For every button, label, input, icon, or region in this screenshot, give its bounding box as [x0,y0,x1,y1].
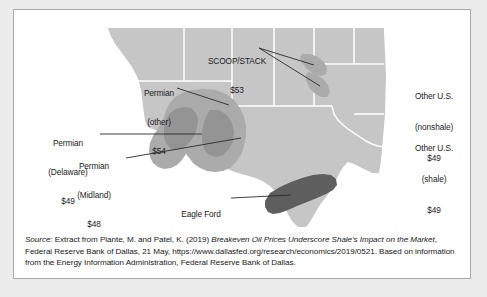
label-other-us-nonshale-line1: Other U.S. [403,91,465,101]
callout-permian-other-line2: (other) [128,118,190,128]
callout-permian-midland: Permian (Midland) $48 [61,143,127,228]
callout-eagle-ford: Eagle Ford $51 [171,191,231,228]
source-title: Breakeven Oil Prices Underscore Shale's … [211,235,434,244]
callout-scoop-stack: SCOOP/STACK $53 [192,38,282,115]
callout-eagle-ford-line1: Eagle Ford [171,210,231,220]
callout-scoop-stack-line2: $53 [192,86,282,96]
callout-permian-midland-line1: Permian [61,162,127,172]
figure-page: SCOOP/STACK $53 Permian (other) $54 Perm… [0,0,487,297]
callout-permian-midland-line2: (Midland) [61,191,127,201]
source-citation: Source: Extract from Plante, M. and Pate… [25,234,459,269]
figure-container: SCOOP/STACK $53 Permian (other) $54 Perm… [13,9,471,279]
source-label: Source: [25,235,53,244]
callout-permian-other-line3: $54 [128,147,190,157]
label-other-us-shale-line1: Other U.S. [403,143,465,153]
map-visualization: SCOOP/STACK $53 Permian (other) $54 Perm… [14,10,470,228]
callout-permian-midland-line3: $48 [61,220,127,228]
label-other-us-shale-line2: (shale) [403,174,465,184]
label-other-us-shale-line3: $49 [403,205,465,215]
callout-permian-other-line1: Permian [128,89,190,99]
callout-permian-other: Permian (other) $54 [128,70,190,176]
source-part1: Extract from Plante, M. and Patel, K. (2… [53,235,212,244]
callout-scoop-stack-line1: SCOOP/STACK [192,57,282,67]
label-other-us-shale: Other U.S. (shale) $49 [403,122,465,228]
